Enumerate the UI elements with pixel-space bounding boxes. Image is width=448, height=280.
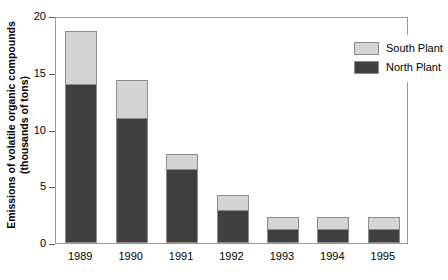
y-axis-tick-label: 20 (34, 9, 46, 24)
x-axis-tick-label-1995: 1995 (353, 249, 413, 264)
y-axis-tick-15: 15 (0, 74, 55, 75)
y-axis-tick-5: 5 (0, 187, 55, 188)
bar-segment-north-plant-1995 (368, 229, 400, 243)
bar-segment-south-plant-1993 (267, 217, 299, 230)
bar-segment-north-plant-1990 (116, 118, 148, 243)
bar-segment-north-plant-1993 (267, 229, 299, 243)
bar-segment-south-plant-1994 (317, 217, 349, 230)
y-axis-tick-label: 0 (40, 236, 46, 251)
y-axis-tick-label: 15 (34, 66, 46, 81)
bar-segment-south-plant-1991 (166, 154, 198, 170)
bar-1994 (317, 16, 349, 243)
bar-segment-north-plant-1994 (317, 229, 349, 243)
legend-label-north-plant: North Plant (386, 61, 441, 74)
bar-1989 (65, 16, 97, 243)
y-axis-tick-0: 0 (0, 244, 55, 245)
bar-segment-north-plant-1992 (217, 210, 249, 243)
y-axis-tick-mark (49, 244, 55, 245)
y-axis-title-line-1: Emissions of volatile organic compounds (5, 21, 18, 229)
bar-1992 (217, 16, 249, 243)
y-axis-tick-label: 5 (40, 179, 46, 194)
bar-1991 (166, 16, 198, 243)
legend-swatch-north-icon (354, 61, 379, 74)
bar-segment-south-plant-1990 (116, 80, 148, 120)
plot-area: South Plant North Plant (55, 17, 408, 244)
y-axis-title-line-2: (thousands of tons) (18, 21, 31, 229)
bar-segment-north-plant-1989 (65, 84, 97, 243)
bar-segment-south-plant-1992 (217, 195, 249, 211)
chart-legend: South Plant North Plant (348, 35, 448, 82)
bar-segment-south-plant-1995 (368, 217, 400, 230)
bar-segment-north-plant-1991 (166, 169, 198, 243)
legend-item-north-plant: North Plant (354, 59, 448, 76)
legend-item-south-plant: South Plant (354, 40, 448, 57)
bar-segment-south-plant-1989 (65, 31, 97, 85)
y-axis-tick-label: 10 (34, 123, 46, 138)
bar-1993 (267, 16, 299, 243)
y-axis-tick-10: 10 (0, 131, 55, 132)
y-axis-tick-20: 20 (0, 17, 55, 18)
legend-label-south-plant: South Plant (386, 42, 443, 55)
y-axis-title: Emissions of volatile organic compounds … (0, 0, 36, 250)
legend-swatch-south-icon (354, 42, 379, 55)
bar-1990 (116, 16, 148, 243)
